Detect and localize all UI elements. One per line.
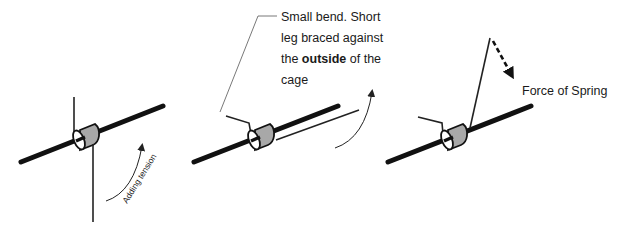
- force-of-spring-label: Force of Spring: [522, 84, 608, 98]
- callout-line-3-bold: outside: [302, 52, 346, 66]
- panel-3-spring-force: Force of Spring: [388, 38, 608, 162]
- panel-2-spring-bent: Small bend. Short leg braced against the…: [194, 10, 387, 162]
- callout-line-1: Small bend. Short: [281, 10, 381, 24]
- callout-text: Small bend. Short leg braced against the…: [281, 10, 387, 87]
- callout-leader-line: [220, 16, 277, 112]
- callout-line-3-post: of the: [346, 52, 381, 66]
- spring-short-leg: [226, 116, 251, 134]
- spring-coil-cylinder: [71, 124, 100, 151]
- callout-line-2: leg braced against: [281, 31, 384, 45]
- bend-arrow-icon: [335, 92, 372, 148]
- force-arrow-icon: [493, 41, 511, 74]
- spring-diagram: Adding tension Small bend. Short leg bra…: [0, 0, 623, 238]
- callout-line-4: cage: [281, 73, 308, 87]
- callout-line-3-pre: the: [281, 52, 302, 66]
- panel-1-spring-unloaded: Adding tension: [21, 97, 163, 222]
- spring-short-leg: [418, 117, 443, 134]
- spring-long-leg: [470, 38, 490, 128]
